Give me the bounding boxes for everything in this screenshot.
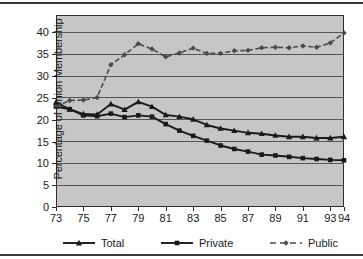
legend-item-private[interactable]: Private	[160, 237, 233, 249]
x-tick-mark	[275, 207, 276, 211]
x-tick-label: 77	[96, 213, 126, 224]
x-tick-mark	[138, 207, 139, 211]
x-tick-label: 87	[233, 213, 263, 224]
y-axis-title: Percentage of Union Membership	[52, 0, 64, 249]
x-tick-mark	[193, 207, 194, 211]
diamond-marker-icon	[269, 237, 303, 249]
chart-figure: 0510152025303540 73757779818385878991939…	[0, 0, 363, 259]
x-tick-mark	[111, 207, 112, 211]
x-tick-mark	[344, 207, 345, 211]
bottom-divider-rule	[0, 254, 363, 256]
x-tick-label: 91	[288, 213, 318, 224]
legend-item-total[interactable]: Total	[62, 237, 124, 249]
chart-legend: TotalPrivatePublic	[56, 234, 344, 252]
x-tick-label: 85	[206, 213, 236, 224]
legend-label: Total	[101, 238, 124, 249]
y-tick-label: 10	[9, 158, 49, 169]
x-tick-mark	[166, 207, 167, 211]
x-tick-label: 81	[151, 213, 181, 224]
legend-item-public[interactable]: Public	[269, 237, 338, 249]
y-tick-label: 30	[9, 71, 49, 82]
triangle-marker-icon	[62, 237, 96, 249]
x-tick-label: 75	[68, 213, 98, 224]
plot-wrapper: 0510152025303540 73757779818385878991939…	[56, 15, 344, 207]
x-tick-label: 89	[260, 213, 290, 224]
x-tick-label: 94	[329, 213, 359, 224]
y-tick-label: 25	[9, 92, 49, 103]
series-total	[53, 99, 347, 141]
x-tick-mark	[248, 207, 249, 211]
legend-label: Private	[199, 238, 233, 249]
legend-label: Public	[308, 238, 338, 249]
series-layer	[56, 15, 344, 207]
x-tick-label: 79	[123, 213, 153, 224]
x-tick-mark	[83, 207, 84, 211]
y-tick-label: 35	[9, 49, 49, 60]
series-public	[53, 30, 346, 109]
y-tick-label: 0	[9, 202, 49, 213]
square-marker-icon	[160, 237, 194, 249]
x-tick-label: 83	[178, 213, 208, 224]
x-tick-mark	[303, 207, 304, 211]
x-tick-mark	[330, 207, 331, 211]
y-tick-label: 40	[9, 27, 49, 38]
y-tick-label: 5	[9, 180, 49, 191]
x-tick-mark	[221, 207, 222, 211]
y-tick-label: 20	[9, 114, 49, 125]
y-tick-label: 15	[9, 136, 49, 147]
